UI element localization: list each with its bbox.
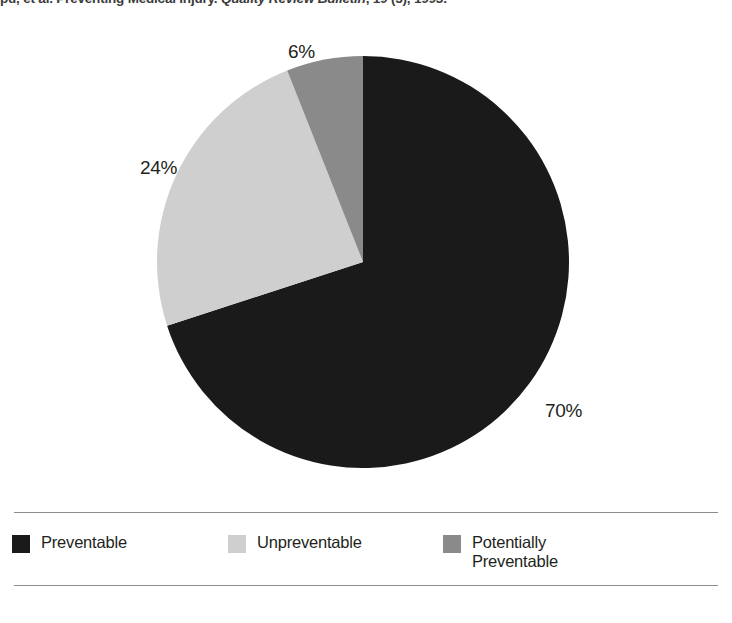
slice-label-preventable: 70% bbox=[545, 400, 582, 422]
pie-chart: 6% 24% 70% bbox=[0, 11, 732, 506]
legend-item-unpreventable: Unpreventable bbox=[228, 533, 362, 553]
legend-swatch-icon bbox=[12, 535, 30, 553]
slice-label-potentially-preventable: 6% bbox=[288, 41, 315, 63]
citation-journal: Quality Review Bulletin bbox=[221, 0, 366, 6]
slice-label-unpreventable: 24% bbox=[140, 157, 177, 179]
legend-swatch-icon bbox=[443, 535, 461, 553]
chart-legend: Preventable Unpreventable Potentially Pr… bbox=[0, 527, 732, 585]
pie-graphic bbox=[157, 56, 569, 468]
legend-item-label: Preventable bbox=[41, 533, 127, 552]
legend-item-potentially-preventable: Potentially Preventable bbox=[443, 533, 558, 571]
legend-item-preventable: Preventable bbox=[12, 533, 127, 553]
legend-swatch-icon bbox=[228, 535, 246, 553]
legend-rule-bottom bbox=[14, 585, 718, 586]
legend-item-label: Unpreventable bbox=[257, 533, 362, 552]
citation-prefix: pu, et al. Preventing Medical Injury. bbox=[0, 0, 221, 6]
citation-text: pu, et al. Preventing Medical Injury. Qu… bbox=[0, 0, 447, 6]
citation-strip: pu, et al. Preventing Medical Injury. Qu… bbox=[0, 0, 732, 11]
legend-rule-top bbox=[14, 512, 718, 513]
citation-suffix: , 19 (5), 1993. bbox=[366, 0, 447, 6]
legend-item-label: Potentially Preventable bbox=[472, 533, 558, 571]
pie-svg bbox=[157, 56, 569, 468]
pie-slices bbox=[157, 56, 569, 468]
